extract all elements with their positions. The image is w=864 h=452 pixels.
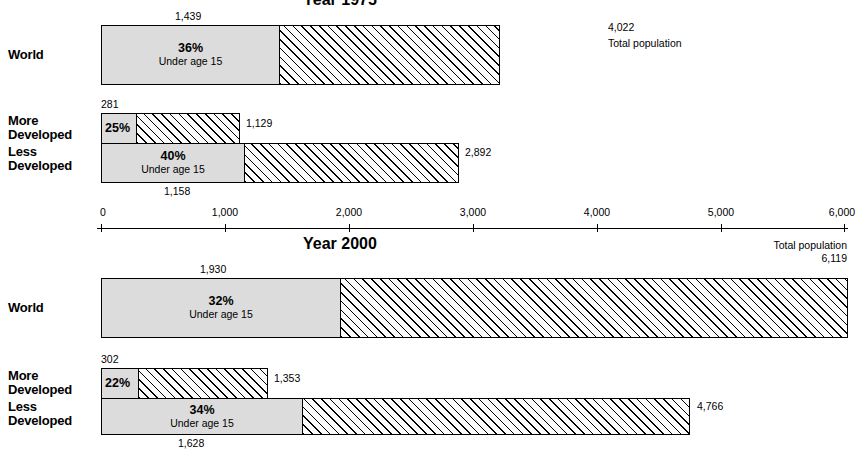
pct-under15-world-2000: 32% <box>102 294 340 308</box>
caption-under15-world-2000: Under age 15 <box>102 308 340 320</box>
total-population-label-2000: Total population <box>627 239 847 252</box>
bar-less-developed-2000: 34% Under age 15 <box>101 398 690 435</box>
segment-total-more-developed-2000 <box>139 369 267 398</box>
row-label-more-developed-line1-2000: More <box>8 369 72 383</box>
bar-more-developed-2000: 22% <box>101 368 268 399</box>
segment-under15-less-developed-2000: 34% Under age 15 <box>102 399 303 434</box>
pct-under15-more-developed-2000: 22% <box>105 376 130 390</box>
population-bar-chart: Year 1975 World 1,439 36% Under age 15 4… <box>0 0 864 452</box>
value-under15-less-developed-2000: 1,628 <box>178 437 204 449</box>
bar-world-2000: 32% Under age 15 <box>101 278 848 338</box>
value-total-world-2000: 6,119 <box>627 252 847 264</box>
segment-total-world-2000 <box>341 279 847 337</box>
panel-title-2000: Year 2000 <box>303 235 377 253</box>
segment-under15-world-2000: 32% Under age 15 <box>102 279 341 337</box>
panel-year-2000: Year 2000 Total population 6,119 World 1… <box>0 0 864 452</box>
row-label-less-developed-line2-2000: Developed <box>8 414 72 428</box>
value-under15-more-developed-2000: 302 <box>101 353 119 365</box>
row-label-less-developed-line1-2000: Less <box>8 400 72 414</box>
pct-under15-less-developed-2000: 34% <box>102 403 302 417</box>
segment-total-less-developed-2000 <box>303 399 689 434</box>
caption-under15-less-developed-2000: Under age 15 <box>102 417 302 429</box>
row-label-more-developed-line2-2000: Developed <box>8 383 72 397</box>
value-under15-world-2000: 1,930 <box>200 263 226 275</box>
value-total-more-developed-2000: 1,353 <box>274 372 300 384</box>
segment-under15-more-developed-2000: 22% <box>102 369 139 398</box>
row-label-more-developed-2000: More Developed <box>8 369 72 397</box>
row-label-world-2000: World <box>8 301 44 315</box>
row-label-less-developed-2000: Less Developed <box>8 400 72 428</box>
value-total-less-developed-2000: 4,766 <box>697 400 723 412</box>
